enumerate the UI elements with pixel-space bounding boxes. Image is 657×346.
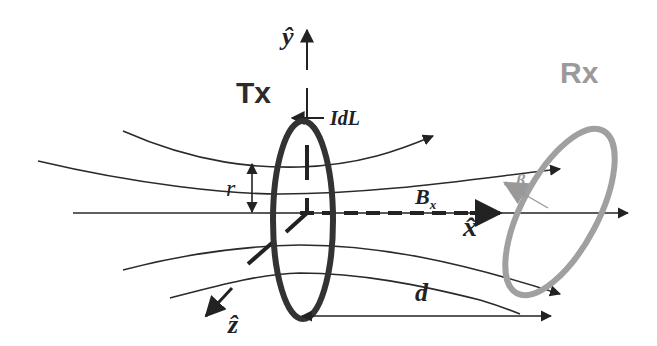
radius-label: r: [226, 176, 235, 200]
z-axis: [206, 213, 307, 316]
field-symbol: B: [415, 184, 430, 209]
field-line-lower-inner: [123, 245, 560, 294]
rx-label: Rx: [560, 58, 598, 88]
tx-label: Tx: [236, 78, 271, 108]
z-axis-label: ẑ: [228, 312, 238, 338]
x-axis-label: x̂: [463, 213, 477, 241]
rx-coil: [483, 113, 636, 311]
field-line-upper-inner: [38, 161, 560, 194]
y-axis-label: ŷ: [282, 24, 294, 50]
angle-label: β: [516, 172, 525, 190]
diagram-graphics: [0, 0, 657, 346]
current-element-label: IdL: [330, 108, 360, 128]
field-subscript: x: [430, 197, 437, 212]
field-line-lower-outer: [170, 273, 520, 314]
field-label: Bx: [415, 186, 436, 211]
magnetic-coupling-diagram: Tx Rx ŷ x̂ ẑ IdL r Bx d β: [0, 0, 657, 346]
tx-coil: [273, 121, 333, 319]
distance-label: d: [415, 280, 428, 306]
